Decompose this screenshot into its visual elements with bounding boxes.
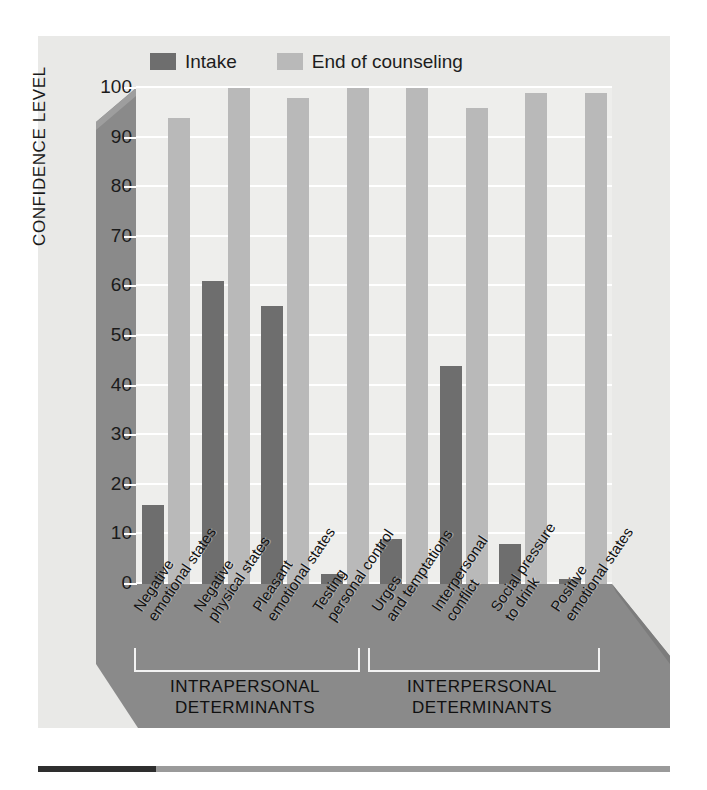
group-title: INTERPERSONALDETERMINANTS: [368, 676, 596, 718]
group-title-line1: INTERPERSONAL: [368, 676, 596, 697]
footer-rule-dark-segment: [38, 766, 156, 772]
group-title-line1: INTRAPERSONAL: [134, 676, 356, 697]
group-title-line2: DETERMINANTS: [134, 697, 356, 718]
group-title-line2: DETERMINANTS: [368, 697, 596, 718]
group-bracket: [368, 648, 600, 672]
group-brackets: INTRAPERSONALDETERMINANTSINTERPERSONALDE…: [38, 36, 670, 728]
group-title: INTRAPERSONALDETERMINANTS: [134, 676, 356, 718]
group-bracket: [134, 648, 360, 672]
chart-figure: Intake End of counseling CONFIDENCE LEVE…: [38, 36, 670, 728]
